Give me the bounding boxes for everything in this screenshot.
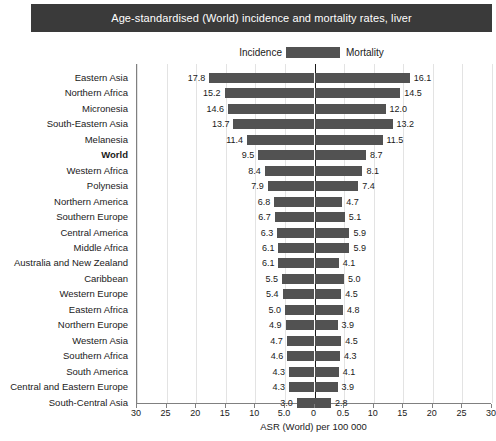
mortality-bar [315, 166, 363, 176]
x-axis: 30252015105.000.51015202530 [136, 404, 491, 420]
mortality-bar [315, 228, 350, 238]
bar-row: 5.55.0 [137, 271, 491, 286]
mortality-value-label: 8.7 [370, 147, 383, 163]
mortality-bar [315, 367, 339, 377]
x-axis-tick-label: 0.5 [337, 408, 350, 418]
incidence-bar [274, 197, 314, 207]
mortality-value-label: 8.1 [366, 163, 379, 179]
bar-row: 4.74.5 [137, 333, 491, 348]
mortality-value-label: 4.1 [343, 364, 356, 380]
bar-row: 15.214.5 [137, 85, 491, 100]
incidence-value-label: 4.6 [239, 348, 283, 364]
mortality-bar [315, 351, 340, 361]
incidence-bar [275, 212, 315, 222]
x-axis-tick-label: 15 [220, 408, 230, 418]
mortality-value-label: 7.4 [362, 178, 375, 194]
category-label: Northern Africa [65, 85, 128, 100]
bar-row: 5.04.8 [137, 302, 491, 317]
category-axis-labels: Eastern AsiaNorthern AfricaMicronesiaSou… [0, 64, 132, 404]
category-label: Caribbean [84, 271, 128, 286]
mortality-bar [315, 135, 383, 145]
x-axis-tick-label: 30 [486, 408, 496, 418]
incidence-bar [247, 135, 314, 145]
mortality-value-label: 5.9 [353, 225, 366, 241]
bar-rows: 17.816.115.214.514.612.013.713.211.411.5… [137, 64, 491, 403]
mortality-bar [315, 104, 386, 114]
mortality-bar [315, 336, 342, 346]
incidence-value-label: 9.5 [210, 147, 254, 163]
mortality-bar [315, 212, 345, 222]
mortality-value-label: 5.9 [353, 240, 366, 256]
incidence-bar [287, 351, 314, 361]
incidence-value-label: 4.9 [238, 317, 282, 333]
category-label: Polynesia [87, 178, 128, 193]
incidence-value-label: 15.2 [177, 85, 221, 101]
mortality-value-label: 4.1 [343, 255, 356, 271]
incidence-value-label: 6.3 [229, 225, 273, 241]
bar-row: 9.58.7 [137, 147, 491, 162]
incidence-value-label: 14.6 [180, 101, 224, 117]
mortality-bar [315, 305, 343, 315]
mortality-bar [315, 320, 338, 330]
category-label: Central and Eastern Europe [10, 379, 128, 394]
bar-row: 14.612.0 [137, 101, 491, 116]
mortality-value-label: 4.7 [346, 194, 359, 210]
category-label: Micronesia [82, 101, 128, 116]
mortality-value-label: 5.1 [349, 209, 362, 225]
bar-row: 17.816.1 [137, 70, 491, 85]
category-label: Melanesia [85, 132, 128, 147]
mortality-value-label: 4.5 [345, 333, 358, 349]
incidence-bar [209, 73, 314, 83]
incidence-bar [233, 119, 314, 129]
bar-row: 6.14.1 [137, 255, 491, 270]
x-axis-tick-label: 25 [161, 408, 171, 418]
mortality-value-label: 4.8 [347, 302, 360, 318]
mortality-bar [315, 88, 401, 98]
category-label: Western Europe [60, 286, 128, 301]
legend-label-mortality: Mortality [340, 47, 384, 58]
incidence-bar [228, 104, 314, 114]
category-label: Eastern Africa [69, 302, 128, 317]
mortality-value-label: 4.3 [344, 348, 357, 364]
mortality-value-label: 14.5 [404, 85, 422, 101]
category-label: Western Africa [66, 163, 128, 178]
incidence-bar [277, 228, 314, 238]
incidence-value-label: 8.4 [217, 163, 261, 179]
category-label: Eastern Asia [75, 70, 128, 85]
x-axis-tick-label: 25 [456, 408, 466, 418]
x-axis-title: ASR (World) per 100 000 [136, 421, 491, 432]
mortality-value-label: 3.9 [342, 317, 355, 333]
category-label: Southern Europe [56, 209, 128, 224]
mortality-bar [315, 197, 343, 207]
incidence-value-label: 4.3 [241, 379, 285, 395]
incidence-bar [289, 382, 314, 392]
plot-area: 17.816.115.214.514.612.013.713.211.411.5… [136, 64, 491, 404]
incidence-bar [289, 367, 314, 377]
incidence-bar [283, 289, 315, 299]
gridline [492, 64, 493, 403]
x-axis-tick-label: 20 [190, 408, 200, 418]
incidence-value-label: 6.8 [226, 194, 270, 210]
x-axis-tick-label: 30 [131, 408, 141, 418]
category-label: World [101, 147, 128, 162]
mortality-bar [315, 243, 350, 253]
incidence-value-label: 4.7 [239, 333, 283, 349]
bar-row: 13.713.2 [137, 116, 491, 131]
category-label: South-Eastern Asia [47, 116, 128, 131]
mortality-value-label: 16.1 [414, 70, 432, 86]
category-label: Southern Africa [63, 348, 128, 363]
mortality-value-label: 3.9 [342, 379, 355, 395]
incidence-value-label: 6.1 [230, 240, 274, 256]
bar-row: 11.411.5 [137, 132, 491, 147]
chart-title-bar: Age-standardised (World) incidence and m… [31, 4, 492, 32]
chart-legend: Incidence Mortality [224, 44, 404, 60]
x-axis-tick-label: 20 [427, 408, 437, 418]
page-title: Age-standardised (World) incidence and m… [111, 12, 412, 24]
category-label: Middle Africa [74, 240, 128, 255]
mortality-bar [315, 119, 393, 129]
x-axis-tick-label: 10 [249, 408, 259, 418]
incidence-value-label: 5.4 [235, 286, 279, 302]
mortality-value-label: 5.0 [348, 271, 361, 287]
x-axis-tick-label: 10 [368, 408, 378, 418]
x-axis-tick-label: 5.0 [278, 408, 291, 418]
